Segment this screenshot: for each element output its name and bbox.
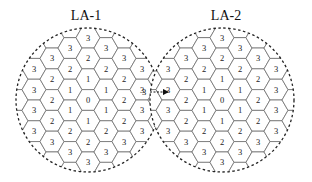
cell-ring-label: 3 bbox=[274, 126, 278, 136]
cell-ring-label: 2 bbox=[122, 95, 126, 105]
cell-ring-label: 1 bbox=[202, 85, 206, 95]
cell-ring-label: 3 bbox=[32, 85, 36, 95]
cell-ring-label: 2 bbox=[238, 126, 242, 136]
location-area-diagram: 3333322233211233210123321123322233333 LA… bbox=[0, 0, 312, 182]
cell-ring-label: 3 bbox=[166, 105, 170, 115]
cell-ring-label: 2 bbox=[50, 116, 54, 126]
la1-title: LA-1 bbox=[71, 8, 101, 23]
cell-ring-label: 2 bbox=[184, 74, 188, 84]
cell-ring-label: 3 bbox=[238, 147, 242, 157]
cell-ring-label: 2 bbox=[50, 74, 54, 84]
cell-ring-label: 2 bbox=[86, 137, 90, 147]
cell-ring-label: 1 bbox=[86, 74, 90, 84]
cell-ring-label: 3 bbox=[122, 53, 126, 63]
cell-ring-label: 2 bbox=[184, 116, 188, 126]
cell-ring-label: 3 bbox=[50, 137, 54, 147]
cell-ring-label: 2 bbox=[256, 95, 260, 105]
cell-ring-label: 3 bbox=[32, 64, 36, 74]
cell-ring-label: 1 bbox=[238, 105, 242, 115]
location-area-la2: 3333322233211233210123321123322233333 LA… bbox=[138, 6, 306, 182]
cell-ring-label: 3 bbox=[238, 43, 242, 53]
cell-ring-label: 3 bbox=[140, 126, 144, 136]
cell-ring-label: 3 bbox=[68, 43, 72, 53]
cell-ring-label: 1 bbox=[68, 85, 72, 95]
location-area-la1: 3333322233211233210123321123322233333 LA… bbox=[4, 6, 172, 182]
cell-ring-label: 1 bbox=[104, 85, 108, 95]
cell-ring-label: 1 bbox=[68, 105, 72, 115]
movement-label: 3 bbox=[142, 87, 146, 97]
cell-ring-label: 3 bbox=[184, 53, 188, 63]
cell-ring-label: 1 bbox=[86, 116, 90, 126]
cell-ring-label: 2 bbox=[256, 116, 260, 126]
cell-ring-label: 3 bbox=[220, 33, 224, 43]
cell-ring-label: 3 bbox=[184, 137, 188, 147]
cell-ring-label: 3 bbox=[122, 137, 126, 147]
cell-ring-label: 3 bbox=[166, 64, 170, 74]
cell-ring-label: 3 bbox=[220, 157, 224, 167]
cell-ring-label: 2 bbox=[68, 126, 72, 136]
cell-ring-label: 0 bbox=[220, 95, 224, 105]
cell-ring-label: 2 bbox=[50, 95, 54, 105]
cell-ring-label: 3 bbox=[166, 126, 170, 136]
cell-ring-label: 3 bbox=[86, 33, 90, 43]
cell-ring-label: 3 bbox=[140, 64, 144, 74]
cell-ring-label: 1 bbox=[220, 116, 224, 126]
cell-ring-label: 2 bbox=[122, 74, 126, 84]
cell-ring-label: 3 bbox=[274, 85, 278, 95]
la2-cell-grid: 3333322233211233210123321123322233333 bbox=[138, 6, 306, 182]
cell-ring-label: 2 bbox=[238, 64, 242, 74]
cell-ring-label: 3 bbox=[140, 105, 144, 115]
cell-hexagon bbox=[76, 173, 100, 182]
cell-ring-label: 3 bbox=[68, 147, 72, 157]
cell-ring-label: 3 bbox=[274, 64, 278, 74]
cell-ring-label: 2 bbox=[104, 126, 108, 136]
la2-title: LA-2 bbox=[211, 8, 241, 23]
cell-ring-label: 2 bbox=[202, 64, 206, 74]
cell-ring-label: 1 bbox=[202, 105, 206, 115]
cell-ring-label: 1 bbox=[104, 105, 108, 115]
cell-ring-label: 2 bbox=[202, 126, 206, 136]
cell-ring-label: 0 bbox=[86, 95, 90, 105]
cell-ring-label: 3 bbox=[50, 53, 54, 63]
cell-ring-label: 2 bbox=[220, 53, 224, 63]
cell-ring-label: 3 bbox=[256, 53, 260, 63]
cell-ring-label: 3 bbox=[166, 85, 170, 95]
cell-ring-label: 1 bbox=[220, 74, 224, 84]
cell-ring-label: 2 bbox=[86, 53, 90, 63]
cell-ring-label: 3 bbox=[104, 43, 108, 53]
cell-ring-label: 2 bbox=[68, 64, 72, 74]
cell-ring-label: 3 bbox=[104, 147, 108, 157]
cell-ring-label: 2 bbox=[256, 74, 260, 84]
cell-ring-label: 3 bbox=[86, 157, 90, 167]
cell-ring-label: 2 bbox=[220, 137, 224, 147]
cell-ring-label: 3 bbox=[32, 126, 36, 136]
la1-cell-grid: 3333322233211233210123321123322233333 bbox=[4, 6, 172, 182]
cell-ring-label: 3 bbox=[202, 147, 206, 157]
cell-ring-label: 3 bbox=[274, 105, 278, 115]
cell-ring-label: 3 bbox=[202, 43, 206, 53]
cell-ring-label: 1 bbox=[238, 85, 242, 95]
cell-ring-label: 2 bbox=[122, 116, 126, 126]
cell-ring-label: 3 bbox=[32, 105, 36, 115]
cell-hexagon bbox=[210, 173, 234, 182]
cell-ring-label: 2 bbox=[104, 64, 108, 74]
cell-ring-label: 3 bbox=[256, 137, 260, 147]
cell-ring-label: 2 bbox=[184, 95, 188, 105]
